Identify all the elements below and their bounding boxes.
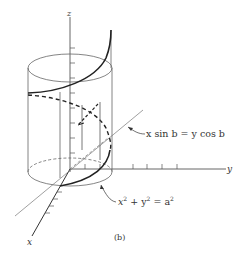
helix-upper-solid [28, 30, 111, 93]
z-axis-label: z [66, 9, 72, 18]
y-axis-label: y [226, 164, 233, 174]
cylinder-equation-label: x2 + y2 = a2 [118, 195, 174, 207]
y-axis [70, 164, 226, 169]
x-axis [32, 169, 70, 236]
arrow-head-icon [100, 185, 104, 189]
x-axis-label: x [27, 237, 32, 247]
cylinder-equation-leader [101, 185, 116, 202]
z-axis [70, 17, 75, 172]
figure-caption: (b) [114, 233, 125, 242]
projection-lines [78, 102, 100, 160]
plane-trace-dashed [70, 138, 108, 169]
plane-equation-label: x sin b = y cos b [146, 128, 225, 139]
helix-back-dashed [28, 95, 111, 150]
arrow-head-icon [128, 127, 133, 131]
cylinder-helix-diagram: z y x [0, 0, 244, 256]
